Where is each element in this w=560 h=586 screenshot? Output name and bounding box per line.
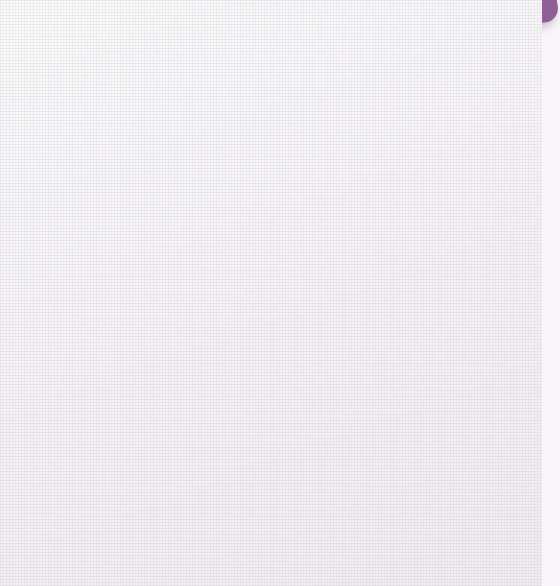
slice-label-entertainment-name: Entertainment (56, 314, 193, 339)
slice-label-rent: Rent 25% (318, 333, 446, 386)
slice-label-rent-value: 25% (318, 360, 446, 387)
chart-title: Monthly Expenses (0, 56, 542, 85)
slice-label-meals-name: Meals (289, 192, 350, 218)
slice-label-savings: Savings 25% (124, 420, 284, 473)
slice-label-gasoline: Gasoline 21% (92, 196, 262, 249)
slice-label-savings-value: 25% (124, 447, 284, 474)
slice-label-gasoline-value: 21% (92, 223, 262, 250)
slice-label-rent-name: Rent (358, 333, 407, 359)
slice-label-savings-name: Savings (163, 420, 245, 446)
slice-label-entertainment: Entertainment 12% (22, 314, 226, 365)
slice-label-meals: Meals 17% (256, 192, 384, 245)
slice-label-meals-value: 17% (256, 219, 384, 246)
slice-label-gasoline-name: Gasoline (132, 196, 223, 222)
slice-label-entertainment-value: 12% (22, 340, 226, 366)
